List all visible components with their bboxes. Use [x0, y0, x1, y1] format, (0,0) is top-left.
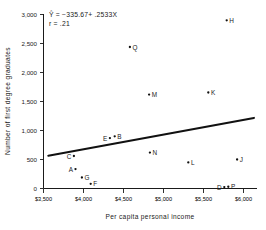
regression-equation-annotation: Ŷ = −335.67+ .2533X	[49, 10, 118, 18]
data-point-label-l: L	[191, 159, 195, 166]
correlation-annotation: r = .21	[49, 20, 70, 27]
y-tick-label-500: 500	[27, 156, 38, 163]
x-tick-label-6000: $6,000	[235, 196, 252, 202]
y-tick-label-1000: 1,000	[22, 127, 38, 134]
x-axis-title: Per capita personal income	[105, 213, 194, 221]
data-point-label-f: F	[93, 180, 97, 187]
data-point-j	[236, 158, 238, 160]
x-tick-label-5000: $5,000	[155, 196, 172, 202]
x-axis-ticks	[44, 189, 244, 194]
data-point-p	[227, 186, 229, 188]
data-point-m	[148, 93, 150, 95]
data-point-f	[90, 183, 92, 185]
data-point-c	[73, 155, 75, 157]
x-tick-label-4500: $4,500	[115, 196, 132, 202]
data-point-d	[223, 186, 225, 188]
data-point-label-q: Q	[133, 44, 138, 52]
data-point-label-a: A	[69, 166, 74, 173]
data-point-a	[74, 168, 76, 170]
data-point-b	[114, 135, 116, 137]
data-point-g	[81, 176, 83, 178]
data-point-label-h: H	[229, 17, 234, 24]
y-tick-label-0: 0	[34, 185, 38, 192]
y-tick-label-1500: 1,500	[22, 98, 38, 105]
data-point-label-g: G	[85, 174, 90, 181]
x-tick-label-3500: $3,500	[35, 196, 52, 202]
data-point-label-p: P	[231, 183, 235, 190]
data-point-n	[149, 151, 151, 153]
data-point-label-j: J	[240, 156, 243, 163]
y-axis-ticks	[40, 15, 44, 189]
data-point-h	[226, 19, 228, 21]
y-tick-label-3000: 3,000	[22, 11, 38, 18]
data-point-label-b: B	[117, 133, 121, 140]
x-tick-label-5500: $5,500	[195, 196, 212, 202]
x-tick-label-4000: $4,000	[75, 196, 92, 202]
plot-canvas: 0 500 1,000 1,500 2,000 2,500 3,000 $3,5…	[0, 0, 266, 230]
scatter-plot-figure: 0 500 1,000 1,500 2,000 2,500 3,000 $3,5…	[0, 0, 266, 230]
data-point-label-d: D	[217, 184, 222, 191]
data-point-label-n: N	[153, 149, 158, 156]
y-tick-label-2000: 2,000	[22, 69, 38, 76]
data-point-l	[187, 161, 189, 163]
data-point-k	[207, 91, 209, 93]
data-point-label-c: C	[67, 153, 72, 160]
data-point-e	[109, 137, 111, 139]
y-axis-title: Number of first degree graduates	[4, 47, 12, 155]
data-point-label-m: M	[152, 91, 157, 98]
data-point-q	[129, 46, 131, 48]
data-point-label-e: E	[103, 135, 107, 142]
regression-line	[48, 118, 254, 156]
data-points-group: ABCDEFGHJKLMNPQ	[67, 17, 243, 191]
data-point-label-k: K	[211, 89, 216, 96]
y-tick-label-2500: 2,500	[22, 40, 38, 47]
